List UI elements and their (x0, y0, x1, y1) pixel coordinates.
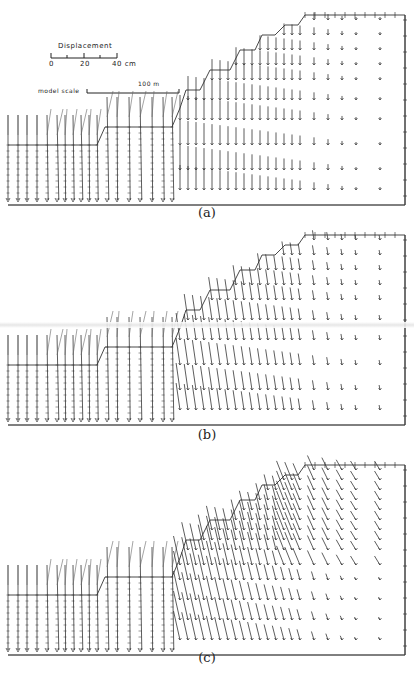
panel-a: (a) (0, 0, 414, 225)
panel-b: (b) (0, 220, 414, 445)
panel-c: (c) (0, 450, 414, 678)
vector-field-c (0, 450, 414, 660)
caption-c: (c) (0, 650, 414, 665)
caption-b: (b) (0, 427, 414, 442)
caption-a: (a) (0, 205, 414, 220)
scan-artifact (0, 322, 414, 328)
vector-field-a (0, 0, 414, 210)
